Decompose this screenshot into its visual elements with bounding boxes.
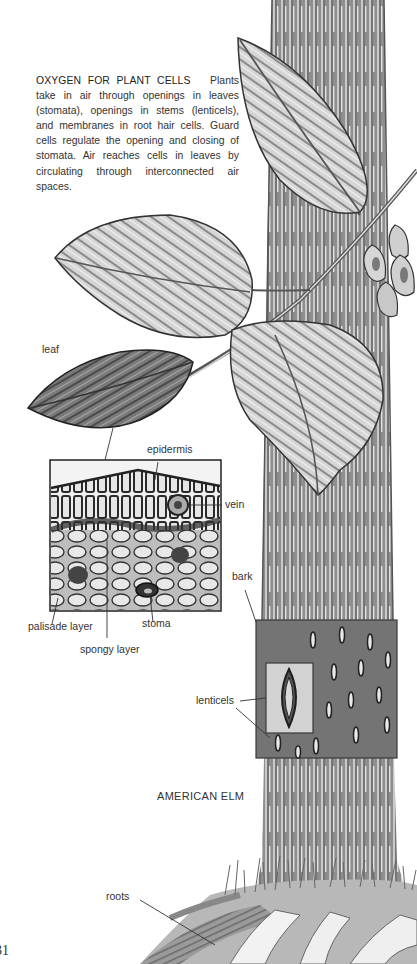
label-leaf: leaf [42,343,59,355]
label-epidermis: epidermis [147,443,193,455]
leaf-cross-section [50,460,221,611]
bark-panel [256,620,397,758]
label-palisade-layer: palisade layer [28,620,93,632]
label-roots: roots [106,890,129,902]
label-lenticels: lenticels [196,694,234,706]
label-stoma: stoma [142,617,171,629]
caption: OXYGEN FOR PLANT CELLS Plants take in ai… [36,73,239,194]
caption-title: OXYGEN FOR PLANT CELLS [36,75,190,86]
left-leaf [55,215,252,338]
label-vein: vein [225,498,244,510]
caption-body: Plants take in air through openings in l… [36,75,239,192]
tree-name: AMERICAN ELM [157,790,244,802]
label-spongy-layer: spongy layer [80,643,140,655]
page-number: 31 [0,943,9,959]
dark-leaf [28,350,193,428]
label-bark: bark [232,570,252,582]
